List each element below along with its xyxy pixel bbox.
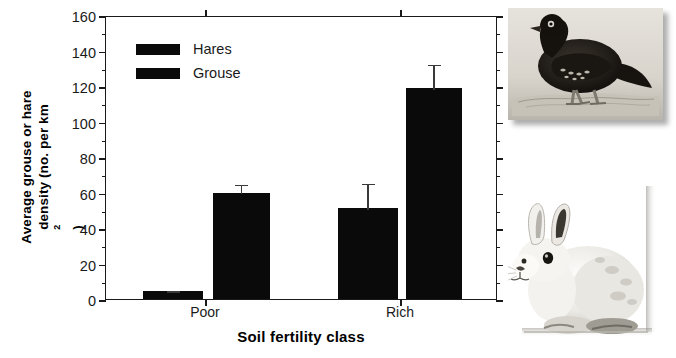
error-cap-rich-hares	[362, 184, 375, 186]
y-tick-minor	[496, 283, 500, 284]
x-tick-label-poor: Poor	[190, 304, 220, 320]
legend-item-grouse: Grouse	[136, 63, 241, 83]
y-tick-major	[99, 300, 106, 302]
y-tick-minor	[102, 283, 106, 284]
y-tick-label: 80	[80, 151, 96, 167]
x-axis-title: Soil fertility class	[105, 328, 497, 345]
y-tick-minor	[496, 176, 500, 177]
y-tick-minor	[102, 34, 106, 35]
y-tick-minor	[102, 247, 106, 248]
y-tick-major	[99, 229, 106, 231]
y-tick-major	[99, 52, 106, 54]
y-tick-major	[496, 265, 503, 267]
y-axis-title: Average grouse or hare density (no. per …	[31, 17, 73, 317]
y-tick-minor	[496, 70, 500, 71]
y-tick-minor	[102, 212, 106, 213]
y-tick-major	[99, 87, 106, 89]
plot-area: 020406080100120140160 Hares Grouse	[105, 16, 497, 300]
y-tick-label: 140	[72, 45, 96, 61]
y-tick-minor	[496, 34, 500, 35]
y-tick-major	[496, 52, 503, 54]
y-tick-major	[99, 158, 106, 160]
y-tick-minor	[102, 141, 106, 142]
y-tick-major	[99, 194, 106, 196]
y-tick-major	[496, 16, 503, 18]
x-tick-major	[400, 10, 402, 17]
y-tick-major	[496, 158, 503, 160]
error-cap-poor-grouse	[235, 185, 248, 187]
error-bar-rich-hares	[367, 184, 368, 211]
legend-item-hares: Hares	[136, 39, 241, 59]
y-tick-major	[496, 87, 503, 89]
y-axis-title-line2-text: density (no. per km	[35, 104, 52, 230]
y-tick-label: 60	[80, 187, 96, 203]
y-tick-major	[99, 265, 106, 267]
y-tick-major	[99, 123, 106, 125]
bar-rich-hares	[338, 208, 398, 299]
y-tick-label: 100	[72, 116, 96, 132]
legend-swatch-hares	[136, 44, 180, 55]
y-tick-minor	[102, 70, 106, 71]
y-tick-major	[496, 123, 503, 125]
y-tick-label: 40	[80, 222, 96, 238]
legend-label-hares: Hares	[193, 41, 232, 57]
y-tick-minor	[496, 212, 500, 213]
y-tick-label: 0	[88, 293, 96, 309]
hare-photograph-svg	[508, 182, 664, 348]
error-cap-rich-grouse	[428, 65, 441, 67]
y-tick-label: 20	[80, 258, 96, 274]
y-tick-major	[99, 16, 106, 18]
y-tick-label: 120	[72, 80, 96, 96]
y-tick-minor	[102, 105, 106, 106]
bar-rich-grouse	[406, 88, 462, 299]
y-tick-major	[496, 300, 503, 302]
grouse-photo	[508, 8, 663, 120]
y-tick-major	[496, 194, 503, 196]
y-axis-title-line1: Average grouse or hare	[18, 90, 35, 243]
y-tick-minor	[496, 105, 500, 106]
x-tick-label-rich: Rich	[386, 304, 414, 320]
y-tick-minor	[496, 247, 500, 248]
hare-photo	[508, 182, 664, 348]
y-tick-label: 160	[72, 9, 96, 25]
legend-swatch-grouse	[136, 68, 180, 79]
bar-poor-grouse	[213, 193, 270, 300]
y-axis-title-exponent: 2	[52, 225, 62, 230]
y-tick-minor	[496, 141, 500, 142]
x-tick-major	[205, 10, 207, 17]
error-cap-poor-hares	[167, 291, 180, 293]
legend-label-grouse: Grouse	[193, 65, 241, 81]
y-tick-major	[496, 229, 503, 231]
y-tick-minor	[102, 176, 106, 177]
figure-panel: Average grouse or hare density (no. per …	[0, 0, 676, 358]
grouse-illustration-svg	[508, 8, 663, 120]
error-bar-rich-grouse	[433, 65, 434, 90]
legend: Hares Grouse	[136, 39, 241, 87]
